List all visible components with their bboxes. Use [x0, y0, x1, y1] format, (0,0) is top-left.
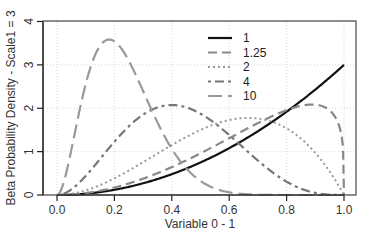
x-tick-label: 0.0 [49, 203, 66, 217]
grid [44, 22, 355, 196]
x-axis-ticks: 0.00.20.40.60.81.0 [49, 195, 353, 217]
y-tick-label: 0 [22, 191, 36, 198]
legend-label: 1 [243, 31, 250, 45]
x-axis-title: Variable 0 - 1 [165, 217, 236, 231]
legend-label: 10 [243, 89, 257, 103]
y-tick-label: 3 [22, 61, 36, 68]
legend-label: 4 [243, 75, 250, 89]
series-line-1 [57, 65, 344, 195]
legend-label: 1.25 [243, 46, 267, 60]
x-tick-label: 0.2 [106, 203, 123, 217]
series-line-2 [57, 118, 344, 195]
y-axis-title: Beta Probability Density - Scale1 = 3 [4, 10, 18, 205]
y-tick-label: 2 [22, 105, 36, 112]
curves [57, 40, 344, 195]
legend-label: 2 [243, 60, 250, 74]
beta-density-chart: 0.00.20.40.60.81.0 01234 Variable 0 - 1 … [0, 0, 366, 236]
x-tick-label: 0.6 [221, 203, 238, 217]
y-tick-label: 4 [22, 18, 36, 25]
series-line-1-25 [57, 105, 344, 195]
series-line-4 [57, 105, 344, 195]
x-tick-label: 1.0 [336, 203, 353, 217]
y-axis-ticks: 01234 [22, 18, 43, 199]
series-line-10 [57, 40, 344, 195]
y-tick-label: 1 [22, 148, 36, 155]
x-tick-label: 0.4 [163, 203, 180, 217]
x-tick-label: 0.8 [278, 203, 295, 217]
legend: 11.252410 [208, 31, 267, 103]
